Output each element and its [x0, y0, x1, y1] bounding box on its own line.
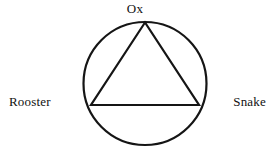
node-label-rooster: Rooster — [9, 95, 51, 109]
zodiac-trine-diagram: Ox Rooster Snake — [0, 0, 270, 147]
trine-figure — [0, 0, 270, 147]
node-label-ox: Ox — [0, 2, 270, 16]
node-label-snake: Snake — [233, 95, 266, 109]
outer-circle — [84, 22, 207, 145]
